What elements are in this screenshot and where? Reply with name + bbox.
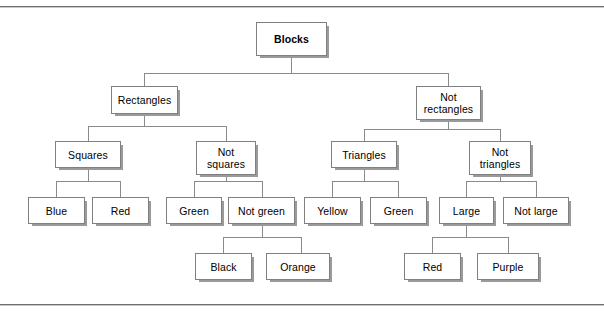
node-not-green[interactable]: Not green <box>228 197 295 224</box>
node-red-large[interactable]: Red <box>404 253 461 280</box>
diagram-canvas: Blocks Rectangles Not rectangles Squares… <box>0 0 604 318</box>
node-orange[interactable]: Orange <box>266 253 330 280</box>
connector-not-green-to-orange <box>301 237 302 253</box>
node-not-squares-label: Not squares <box>207 146 245 170</box>
connector-squares-bus <box>56 181 120 182</box>
node-purple-label: Purple <box>493 261 524 273</box>
connector-not-triangles-to-not-large <box>536 181 537 197</box>
node-squares[interactable]: Squares <box>55 141 121 168</box>
node-not-large[interactable]: Not large <box>503 197 569 224</box>
node-not-large-label: Not large <box>514 205 558 217</box>
node-not-triangles[interactable]: Not triangles <box>469 141 531 175</box>
connector-not-squares-bus <box>194 181 262 182</box>
connector-large-stem <box>466 224 467 237</box>
node-green-squares[interactable]: Green <box>166 197 222 224</box>
connector-root-to-not-rectangles <box>448 73 449 87</box>
connector-large-bus <box>432 237 508 238</box>
node-not-rectangles-label: Not rectangles <box>424 91 473 115</box>
connector-root-bus <box>144 73 448 74</box>
connector-not-rectangles-stem <box>448 120 449 129</box>
node-not-squares[interactable]: Not squares <box>196 141 256 175</box>
node-red-rectangles-label: Red <box>111 205 131 217</box>
connector-root-stem <box>291 56 292 73</box>
connector-not-green-to-black <box>223 237 224 253</box>
connector-rectangles-stem <box>144 114 145 126</box>
node-black-label: Black <box>210 261 236 273</box>
connector-not-rectangles-to-not-triangles <box>500 129 501 141</box>
frame-rule-bottom <box>0 304 604 306</box>
node-rectangles-label: Rectangles <box>118 94 172 106</box>
node-red-large-label: Red <box>423 261 443 273</box>
node-blue[interactable]: Blue <box>28 197 85 224</box>
connector-rectangles-to-squares <box>88 126 89 141</box>
node-not-green-label: Not green <box>238 205 285 217</box>
connector-squares-stem <box>88 168 89 181</box>
connector-squares-to-red <box>120 181 121 197</box>
connector-not-green-stem <box>262 224 263 237</box>
node-blocks[interactable]: Blocks <box>256 22 327 56</box>
node-black[interactable]: Black <box>195 253 252 280</box>
connector-rectangles-bus <box>88 126 226 127</box>
node-not-rectangles[interactable]: Not rectangles <box>416 86 481 120</box>
connector-not-squares-to-not-green <box>262 181 263 197</box>
connector-large-to-red <box>432 237 433 253</box>
node-green-triangles-label: Green <box>384 205 414 217</box>
connector-rectangles-to-not-squares <box>226 126 227 141</box>
connector-squares-to-blue <box>56 181 57 197</box>
node-not-triangles-label: Not triangles <box>480 146 521 170</box>
connector-not-green-bus <box>223 237 301 238</box>
node-rectangles[interactable]: Rectangles <box>111 86 178 114</box>
connector-root-to-rectangles <box>144 73 145 87</box>
connector-triangles-bus <box>332 181 398 182</box>
connector-not-rectangles-to-triangles <box>364 129 365 141</box>
node-large[interactable]: Large <box>439 197 494 224</box>
node-green-squares-label: Green <box>179 205 209 217</box>
node-purple[interactable]: Purple <box>477 253 539 280</box>
node-squares-label: Squares <box>68 149 108 161</box>
node-large-label: Large <box>453 205 480 217</box>
node-triangles[interactable]: Triangles <box>331 141 397 168</box>
node-blocks-label: Blocks <box>274 33 309 45</box>
frame-rule-top <box>0 6 604 8</box>
node-orange-label: Orange <box>280 261 316 273</box>
connector-triangles-to-green <box>398 181 399 197</box>
connector-large-to-purple <box>508 237 509 253</box>
node-yellow-label: Yellow <box>317 205 348 217</box>
node-triangles-label: Triangles <box>342 149 386 161</box>
node-blue-label: Blue <box>46 205 67 217</box>
connector-not-triangles-to-large <box>466 181 467 197</box>
connector-not-triangles-bus <box>466 181 536 182</box>
connector-not-rectangles-bus <box>364 129 500 130</box>
node-green-triangles[interactable]: Green <box>370 197 427 224</box>
node-red-rectangles[interactable]: Red <box>92 197 149 224</box>
connector-not-squares-to-green <box>194 181 195 197</box>
node-yellow[interactable]: Yellow <box>304 197 361 224</box>
connector-triangles-stem <box>364 168 365 181</box>
connector-triangles-to-yellow <box>332 181 333 197</box>
